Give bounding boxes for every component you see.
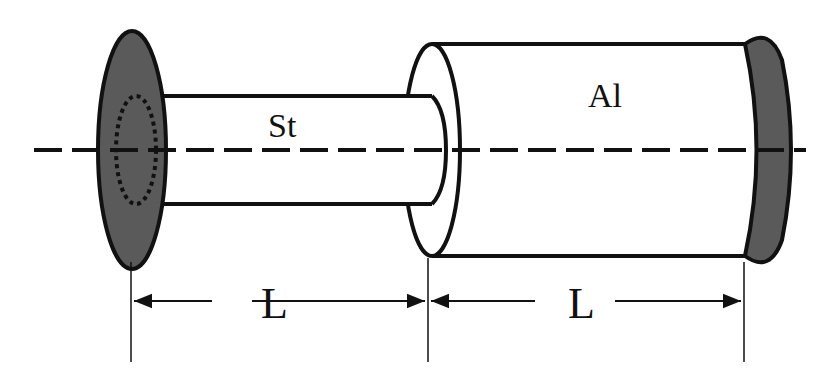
shaft-diagram: St Al L L [0,0,826,383]
label-length-left: L [261,279,288,328]
label-steel: St [268,107,297,144]
label-aluminum: Al [588,77,622,114]
label-length-right: L [568,279,595,328]
